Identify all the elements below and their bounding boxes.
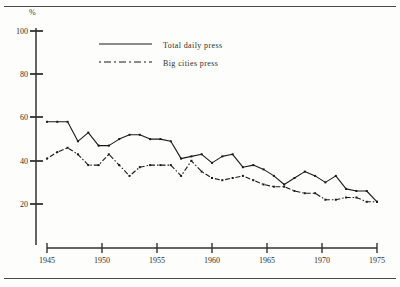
data-point [46,158,48,160]
data-point [273,175,275,177]
data-point [159,138,161,140]
data-point [46,121,48,123]
data-point [108,145,110,147]
data-point [304,171,306,173]
data-point [345,197,347,199]
data-point [87,164,89,166]
data-point [232,153,234,155]
data-point [376,201,378,203]
data-point [366,190,368,192]
data-point [180,175,182,177]
data-point [355,197,357,199]
data-point [242,166,244,168]
data-point [170,164,172,166]
data-point [263,168,265,170]
data-point [273,186,275,188]
data-point [221,155,223,157]
data-point [314,192,316,194]
data-point [324,199,326,201]
data-point [190,155,192,157]
data-point [56,151,58,153]
data-point [221,179,223,181]
data-point [170,140,172,142]
data-point [77,153,79,155]
series-layer [46,121,378,203]
data-point [98,164,100,166]
data-point [201,153,203,155]
data-point [139,134,141,136]
data-point [87,132,89,134]
data-point [263,184,265,186]
data-point [201,171,203,173]
data-point [180,158,182,160]
data-point [159,164,161,166]
data-point [149,138,151,140]
data-point [77,140,79,142]
data-point [355,190,357,192]
data-point [294,190,296,192]
data-point [149,164,151,166]
data-point [211,162,213,164]
data-point [129,175,131,177]
data-point [304,192,306,194]
data-point [118,164,120,166]
series-big-cities-press [46,147,378,203]
data-point [314,175,316,177]
data-point [232,177,234,179]
figure-container: % 100 80 60 40 20 1945 1950 1955 1960 19… [0,0,400,287]
data-point [190,160,192,162]
data-point [366,201,368,203]
data-point [335,199,337,201]
data-point [118,138,120,140]
data-point [242,175,244,177]
data-point [294,177,296,179]
data-point [211,177,213,179]
data-point [67,121,69,123]
data-point [335,175,337,177]
plot-area [0,0,400,287]
data-point [324,181,326,183]
data-point [283,186,285,188]
data-point [283,184,285,186]
data-point [252,164,254,166]
data-point [345,188,347,190]
data-point [139,166,141,168]
data-point [108,153,110,155]
series-total-daily-press [46,121,378,203]
data-point [129,134,131,136]
data-point [98,145,100,147]
data-point [252,179,254,181]
data-point [56,121,58,123]
data-point [67,147,69,149]
